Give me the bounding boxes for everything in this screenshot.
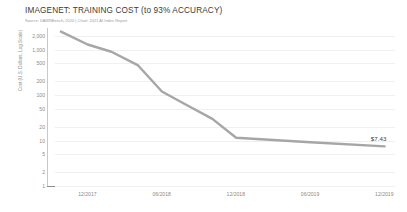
y-axis-tick-label: 1,000 — [3, 47, 45, 53]
y-axis-tick-label: 100 — [3, 92, 45, 98]
y-axis-line — [47, 28, 48, 186]
y-axis-tick-label: 2 — [3, 169, 45, 175]
y-axis-tick-label: 2,000 — [3, 33, 45, 39]
x-axis-tick-label: 06/2019 — [301, 191, 319, 197]
gridline — [55, 186, 395, 187]
y-axis-tick-label: 200 — [3, 78, 45, 84]
y-axis-tick-label: 1 — [3, 183, 45, 189]
x-axis-tick-label: 12/2017 — [78, 191, 96, 197]
y-axis-tick-label: 20 — [3, 124, 45, 130]
chart-source-note: Source: DAWNBench, 2020 | Chart: 2021 AI… — [25, 18, 127, 23]
data-label-end-value: $7.43 — [371, 135, 386, 142]
series-line-training-cost — [55, 28, 395, 186]
x-axis-tick-label: 12/2019 — [375, 191, 393, 197]
x-axis-tick-labels: 12/201706/201812/201806/201912/2019 — [55, 191, 395, 201]
y-axis-tick-labels: 2,0001,000500200100502010521 — [0, 28, 45, 186]
y-axis-tick-label: 50 — [3, 106, 45, 112]
y-axis-tick-label: 10 — [3, 138, 45, 144]
plot-area — [55, 28, 395, 186]
page-title: IMAGENET: TRAINING COST (to 93% ACCURACY… — [25, 6, 222, 15]
x-axis-tick-label: 12/2018 — [227, 191, 245, 197]
y-axis-tick-label: 500 — [3, 60, 45, 66]
y-axis-tick-label: 5 — [3, 151, 45, 157]
chart-card: IMAGENET: TRAINING COST (to 93% ACCURACY… — [0, 0, 407, 212]
x-axis-tick-label: 06/2018 — [152, 191, 170, 197]
